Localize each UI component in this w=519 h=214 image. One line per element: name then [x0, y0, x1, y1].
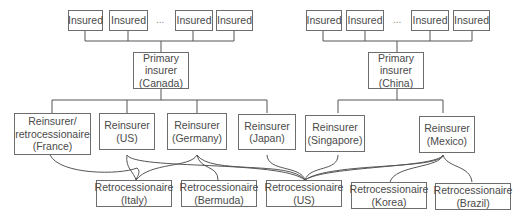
- reinsurer-germany: Reinsurer (Germany): [167, 113, 227, 150]
- primary-insurer-china: Primary insurer (China): [368, 52, 424, 89]
- insured-box: Insured: [109, 10, 148, 31]
- insured-box: Insured: [216, 10, 253, 31]
- insured-box: Insured: [411, 10, 449, 31]
- primary-insurer-canada: Primary insurer (Canada): [133, 52, 189, 89]
- reinsurer-us: Reinsurer (US): [99, 113, 155, 150]
- retrocessionaire-brazil: Retrocessionaire (Brazil): [435, 183, 511, 210]
- insured-box: Insured: [306, 10, 342, 31]
- retrocessionaire-korea: Retrocessionaire (Korea): [351, 182, 427, 209]
- insured-box: Insured: [68, 10, 103, 31]
- reinsurer-singapore: Reinsurer (Singapore): [305, 115, 365, 152]
- insured-box: Insured: [175, 10, 213, 31]
- insured-box: Insured: [346, 10, 384, 31]
- reinsurer-mexico: Reinsurer (Mexico): [419, 116, 475, 153]
- ellipsis: ...: [393, 14, 401, 25]
- retrocessionaire-italy: Retrocessionaire (Italy): [96, 180, 172, 207]
- retrocessionaire-bermuda: Retrocessionaire (Bermuda): [181, 180, 257, 207]
- insured-box: Insured: [453, 10, 490, 31]
- reinsurer-japan: Reinsurer (Japan): [238, 114, 296, 150]
- reinsurer-france: Reinsurer/ retrocessionaire (France): [14, 113, 91, 155]
- connector-lines: [0, 0, 519, 214]
- ellipsis: ...: [156, 14, 164, 25]
- retrocessionaire-us: Retrocessionaire (US): [266, 180, 342, 207]
